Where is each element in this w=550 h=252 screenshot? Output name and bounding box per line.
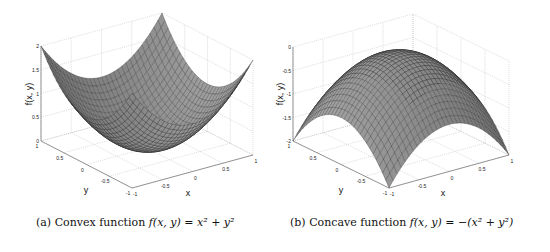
svg-text:0: 0 bbox=[451, 175, 454, 181]
svg-text:-0.5: -0.5 bbox=[101, 178, 110, 184]
svg-text:0.5: 0.5 bbox=[32, 114, 39, 120]
svg-text:1.5: 1.5 bbox=[32, 67, 39, 73]
svg-text:-0.5: -0.5 bbox=[161, 183, 170, 189]
convex-surface-plot: 00.511.52-1-0.500.51-1-0.500.51f(x, y)yx bbox=[0, 0, 275, 210]
caption-a-text: Convex function bbox=[55, 216, 146, 229]
z-axis-label: f(x, y) bbox=[24, 83, 34, 106]
caption-b-formula: f(x, y) = −(x² + y²) bbox=[410, 216, 514, 229]
caption-a-formula: f(x, y) = x² + y² bbox=[149, 216, 235, 229]
svg-text:0: 0 bbox=[336, 167, 339, 173]
svg-text:-1.5: -1.5 bbox=[282, 115, 291, 121]
z-axis-label: f(x, y) bbox=[275, 83, 285, 106]
svg-text:-1: -1 bbox=[133, 191, 138, 197]
y-axis-label: y bbox=[84, 185, 89, 195]
svg-text:1: 1 bbox=[511, 158, 514, 164]
svg-text:2: 2 bbox=[36, 43, 39, 49]
caption-b: (b) Concave function f(x, y) = −(x² + y²… bbox=[290, 216, 513, 229]
x-axis-label: x bbox=[186, 188, 191, 198]
caption-a: (a) Convex function f(x, y) = x² + y² bbox=[36, 216, 235, 229]
svg-text:0.5: 0.5 bbox=[310, 155, 317, 161]
svg-text:-0.5: -0.5 bbox=[418, 183, 427, 189]
x-axis-label: x bbox=[441, 188, 446, 198]
svg-text:1: 1 bbox=[36, 143, 39, 149]
y-axis-label: y bbox=[339, 185, 344, 195]
caption-a-label: (a) bbox=[36, 216, 51, 229]
svg-text:0: 0 bbox=[194, 175, 197, 181]
svg-text:0.5: 0.5 bbox=[479, 166, 486, 172]
svg-text:0: 0 bbox=[81, 167, 84, 173]
svg-text:-1: -1 bbox=[383, 190, 388, 196]
surface-mesh bbox=[293, 50, 509, 188]
svg-text:0.5: 0.5 bbox=[222, 166, 229, 172]
svg-text:0: 0 bbox=[288, 44, 291, 50]
svg-text:-1: -1 bbox=[126, 190, 131, 196]
svg-text:1: 1 bbox=[36, 91, 39, 97]
svg-text:-1: -1 bbox=[390, 191, 395, 197]
surface-mesh bbox=[41, 13, 253, 152]
concave-surface-canvas: -2-1.5-1-0.50-1-0.500.51-1-0.500.51f(x, … bbox=[275, 0, 550, 210]
convex-surface-canvas: 00.511.52-1-0.500.51-1-0.500.51f(x, y)yx bbox=[0, 0, 275, 210]
svg-text:-1: -1 bbox=[287, 91, 292, 97]
svg-text:1: 1 bbox=[288, 143, 291, 149]
caption-b-text: Concave function bbox=[309, 216, 406, 229]
caption-b-label: (b) bbox=[290, 216, 306, 229]
svg-text:0.5: 0.5 bbox=[56, 155, 63, 161]
concave-surface-plot: -2-1.5-1-0.50-1-0.500.51-1-0.500.51f(x, … bbox=[275, 0, 550, 210]
svg-text:-0.5: -0.5 bbox=[282, 68, 291, 74]
svg-text:-0.5: -0.5 bbox=[357, 178, 366, 184]
svg-text:1: 1 bbox=[255, 158, 258, 164]
